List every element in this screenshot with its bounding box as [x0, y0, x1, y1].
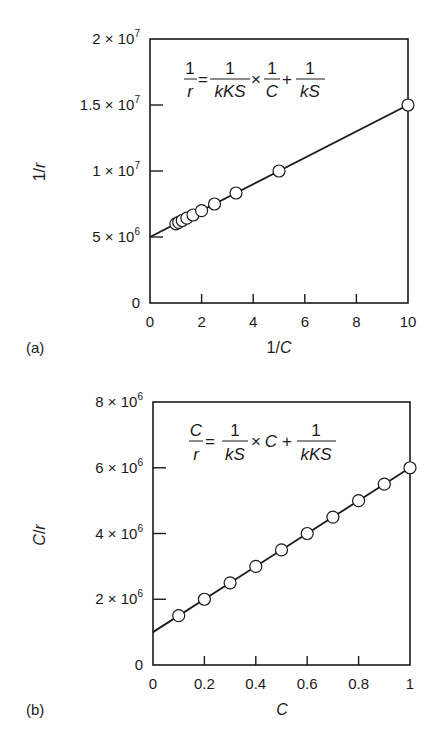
y-tick-label: 2 × 107: [92, 28, 140, 47]
x-axis-title-a: 1/C: [267, 339, 292, 356]
y-tick-label: 4 × 106: [95, 523, 143, 542]
equation-b: C r = 1 kS × C + 1 kKS: [189, 421, 336, 464]
x-tick-label: 0.6: [297, 675, 318, 692]
svg-text:r: r: [193, 445, 200, 464]
panel-label-b: (b): [26, 701, 44, 718]
svg-text:1: 1: [305, 59, 314, 78]
svg-text:r: r: [187, 82, 194, 101]
y-tick-label: 1.5 × 107: [80, 94, 141, 113]
svg-text:1: 1: [230, 421, 239, 440]
x-tick-label: 6: [301, 313, 309, 330]
svg-text:1: 1: [311, 421, 320, 440]
svg-text:=: =: [205, 432, 215, 451]
x-tick-label: 0: [146, 313, 154, 330]
x-tick-label: 4: [249, 313, 257, 330]
svg-text:C: C: [266, 82, 279, 101]
data-point: [209, 198, 221, 210]
svg-text:+: +: [282, 70, 292, 89]
data-point: [173, 610, 185, 622]
svg-text:1: 1: [225, 59, 234, 78]
svg-text:1: 1: [185, 59, 194, 78]
equation-a: 1 r = 1 kKS × 1 C + 1 kS: [184, 59, 325, 101]
data-point: [327, 511, 339, 523]
y-axis-title-a: 1/r: [31, 162, 48, 181]
data-point: [230, 187, 242, 199]
data-point: [196, 205, 208, 217]
x-tick-label: 0: [149, 675, 157, 692]
y-tick-label: 2 × 106: [95, 588, 143, 607]
data-point: [404, 462, 416, 474]
y-tick-label: 5 × 106: [92, 226, 140, 245]
x-tick-label: 2: [197, 313, 205, 330]
y-axis-title-b: C/r: [31, 524, 48, 546]
svg-text:×: ×: [251, 432, 261, 451]
figure: 0246810 05 × 1061 × 1071.5 × 1072 × 107 …: [0, 0, 441, 746]
x-tick-label: 0.2: [194, 675, 215, 692]
x-axis-ticks-a: 0246810: [146, 294, 417, 330]
data-point: [250, 560, 262, 572]
x-axis-title-b: C: [276, 701, 288, 718]
svg-text:=: =: [198, 70, 208, 89]
data-point: [224, 577, 236, 589]
x-tick-label: 0.8: [348, 675, 369, 692]
svg-text:×: ×: [251, 70, 261, 89]
x-tick-label: 0.4: [245, 675, 266, 692]
svg-text:+: +: [282, 432, 292, 451]
data-point: [353, 495, 365, 507]
data-point: [273, 165, 285, 177]
y-tick-label: 6 × 106: [95, 457, 143, 476]
y-tick-label: 0: [132, 294, 140, 311]
y-tick-label: 1 × 107: [92, 160, 140, 179]
x-tick-label: 1: [406, 675, 414, 692]
svg-text:kS: kS: [300, 82, 321, 101]
y-tick-label: 8 × 106: [95, 391, 143, 410]
svg-text:C: C: [190, 421, 203, 440]
data-point: [378, 478, 390, 490]
data-point: [301, 528, 313, 540]
svg-text:kKS: kKS: [214, 82, 246, 101]
svg-text:1: 1: [267, 59, 276, 78]
x-tick-label: 10: [400, 313, 417, 330]
x-axis-ticks-b: 00.20.40.60.81: [149, 656, 414, 692]
data-point: [198, 593, 210, 605]
data-point: [276, 544, 288, 556]
svg-text:kS: kS: [225, 445, 246, 464]
panel-label-a: (a): [26, 339, 44, 356]
chart-a: 0246810 05 × 1061 × 1071.5 × 1072 × 107 …: [26, 28, 416, 356]
y-tick-label: 0: [135, 656, 143, 673]
x-tick-label: 8: [352, 313, 360, 330]
svg-text:kKS: kKS: [300, 445, 332, 464]
svg-text:C: C: [265, 432, 278, 451]
data-point: [402, 99, 414, 111]
chart-b: 00.20.40.60.81 02 × 1064 × 1066 × 1068 ×…: [26, 391, 416, 718]
